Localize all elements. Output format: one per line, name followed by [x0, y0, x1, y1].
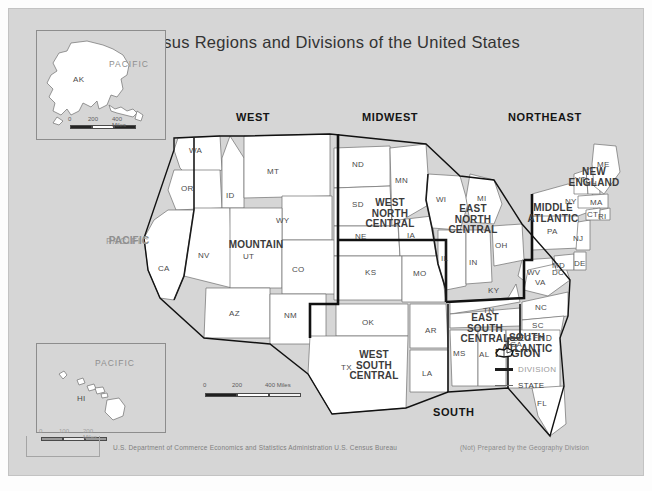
state-label-pa: PA	[547, 227, 558, 236]
scale-mid-main: 200	[232, 382, 242, 388]
state-label-ms: MS	[453, 349, 466, 358]
wnc-line-3: CENTRAL	[358, 219, 422, 230]
state-label-nm: NM	[284, 311, 297, 320]
state-polygons	[144, 134, 620, 436]
ne-line-1: NEW	[564, 167, 624, 178]
state-label-co: CO	[292, 265, 305, 274]
division-label-pacific: PACIFIC	[93, 236, 165, 247]
state-label-tx: TX	[341, 363, 352, 372]
state-label-id: ID	[226, 191, 235, 200]
enc-line-3: CENTRAL	[442, 225, 504, 236]
footer-credit-text: (Not) Prepared by the Geography Division	[460, 444, 589, 451]
state-label-ok: OK	[362, 318, 374, 327]
state-label-mt: MT	[267, 167, 279, 176]
map-page: Census Regions and Divisions of the Unit…	[0, 0, 652, 491]
footer-agency-text: U.S. Department of Commerce Economics an…	[113, 444, 397, 451]
division-label-mountain: MOUNTAIN	[216, 240, 296, 251]
state-label-sc: SC	[532, 321, 544, 330]
region-label-west: WEST	[236, 111, 270, 123]
state-label-oh: OH	[495, 241, 508, 250]
legend-title: LEGEND	[513, 333, 553, 343]
state-label-al: AL	[479, 350, 489, 359]
enc-line-1: EAST	[442, 204, 504, 215]
state-label-il: IL	[441, 254, 448, 263]
state-label-wa: WA	[189, 146, 202, 155]
state-label-ut: UT	[243, 252, 254, 261]
state-label-ct: CT	[587, 210, 598, 219]
region-label-midwest: MIDWEST	[362, 111, 418, 123]
legend-item-division: DIVISION	[495, 365, 556, 374]
division-label-middle-atlantic: MIDDLE ATLANTIC	[522, 203, 584, 224]
state-label-fl: FL	[537, 399, 547, 408]
scale-start-main: 0	[203, 382, 206, 388]
scale-end-main: 400 Miles	[265, 382, 291, 388]
division-swatch-icon	[495, 368, 513, 371]
region-swatch-icon	[495, 347, 515, 358]
state-label-wi: WI	[436, 195, 446, 204]
state-label-dc: DC	[552, 268, 564, 277]
state-label-mo: MO	[413, 269, 427, 278]
legend-label-division: DIVISION	[518, 365, 556, 374]
state-label-ri: RI	[598, 212, 607, 221]
state-label-ar: AR	[425, 326, 437, 335]
state-label-az: AZ	[229, 309, 240, 318]
legend-item-region: REGION	[495, 347, 541, 359]
state-label-ks: KS	[365, 268, 376, 277]
footer-box	[26, 436, 100, 457]
state-label-va: VA	[535, 278, 546, 287]
state-label-nd: ND	[352, 160, 364, 169]
wnc-line-1: WEST	[358, 198, 422, 209]
state-label-mn: MN	[395, 176, 408, 185]
state-label-tn: TN	[483, 306, 494, 315]
region-label-northeast: NORTHEAST	[508, 111, 582, 123]
state-label-ny: NY	[565, 197, 577, 206]
footer: U.S. Department of Commerce Economics an…	[8, 444, 644, 458]
state-swatch-icon	[495, 385, 513, 386]
state-label-ca: CA	[158, 264, 170, 273]
division-label-west-north-central: WEST NORTH CENTRAL	[358, 198, 422, 230]
state-label-sd: SD	[352, 200, 364, 209]
state-label-wy: WY	[276, 216, 290, 225]
state-label-nv: NV	[198, 251, 210, 260]
state-label-la: LA	[422, 369, 432, 378]
state-label-de: DE	[574, 259, 586, 268]
map-plate: Census Regions and Divisions of the Unit…	[8, 8, 644, 476]
region-label-south: SOUTH	[433, 406, 475, 418]
state-label-nh: NH	[585, 179, 597, 188]
state-label-ne: NE	[355, 232, 367, 241]
state-label-in: IN	[469, 258, 478, 267]
wsc-line-1: WEST	[342, 350, 406, 361]
division-label-east-north-central: EAST NORTH CENTRAL	[442, 204, 504, 236]
wsc-line-3: CENTRAL	[342, 371, 406, 382]
state-label-ia: IA	[407, 231, 415, 240]
state-label-ky: KY	[488, 286, 499, 295]
state-label-or: OR	[181, 184, 194, 193]
state-label-me: ME	[597, 160, 610, 169]
state-label-ma: MA	[590, 198, 603, 207]
legend-label-state: STATE	[518, 381, 545, 390]
state-label-nc: NC	[535, 303, 547, 312]
state-label-wv: WV	[527, 268, 541, 277]
ma-line-2: ATLANTIC	[522, 214, 584, 225]
legend-item-state: STATE	[495, 381, 545, 390]
state-label-mi: MI	[477, 194, 487, 203]
state-label-nj: NJ	[573, 234, 583, 243]
